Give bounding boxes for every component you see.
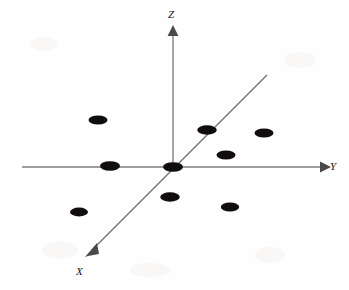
axes-scatter-diagram: Y Z X (0, 0, 349, 290)
data-point (160, 192, 180, 201)
data-point (255, 128, 274, 137)
z-axis-label: Z (168, 8, 175, 20)
data-point (221, 203, 239, 212)
data-point (100, 161, 120, 171)
data-point (197, 125, 217, 134)
data-point (89, 115, 108, 124)
data-point (163, 162, 183, 172)
figure-container: Y Z X (0, 0, 349, 290)
x-axis-label: X (75, 265, 84, 277)
data-point (217, 150, 236, 159)
data-point (70, 208, 88, 217)
